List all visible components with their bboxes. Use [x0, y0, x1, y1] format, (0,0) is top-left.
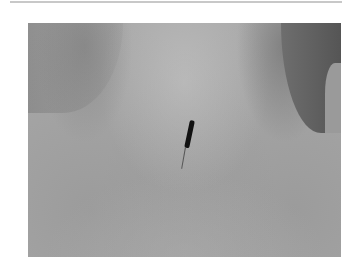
acupuncture-photo	[28, 23, 341, 257]
background-wall	[325, 63, 341, 133]
top-divider	[10, 1, 342, 3]
